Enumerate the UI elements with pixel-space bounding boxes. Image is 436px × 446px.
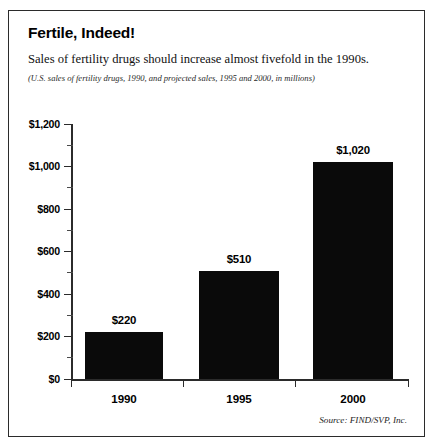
y-tick-minor-100: [67, 357, 73, 358]
y-tick-minor-700: [67, 230, 73, 231]
y-axis-label-800: $800: [0, 204, 60, 215]
bar-1995: [199, 271, 279, 379]
y-tick-major-400: [64, 294, 73, 295]
y-tick-major-600: [64, 251, 73, 252]
y-axis-label-600: $600: [0, 246, 60, 257]
x-tick-left-edge: [71, 379, 72, 387]
x-axis-label-1990: 1990: [79, 392, 169, 405]
x-tick-1990-1995: [183, 379, 184, 387]
y-tick-major-1000: [64, 166, 73, 167]
figure-panel: Fertile, Indeed! Sales of fertility drug…: [8, 10, 425, 437]
y-axis-label-200: $200: [0, 331, 60, 342]
y-tick-major-200: [64, 336, 73, 337]
y-axis-label-0: $0: [0, 374, 60, 385]
y-axis-label-1200: $1,200: [0, 119, 60, 130]
x-tick-right-edge: [408, 379, 409, 387]
bar-value-label-1995: $510: [184, 253, 294, 265]
x-tick-1995-2000: [295, 379, 296, 387]
bar-1990: [85, 332, 163, 379]
y-tick-major-1200: [64, 124, 73, 125]
x-axis-label-2000: 2000: [308, 392, 398, 405]
y-axis-label-1000: $1,000: [0, 161, 60, 172]
source-attribution: Source: FIND/SVP, Inc.: [319, 415, 407, 425]
y-tick-major-800: [64, 209, 73, 210]
bar-value-label-1990: $220: [69, 314, 179, 326]
x-axis-label-1995: 1995: [194, 392, 284, 405]
y-tick-minor-500: [67, 272, 73, 273]
bar-chart-plot: $1,200 $1,000 $800 $600 $400 $200 $0 $22…: [9, 11, 426, 438]
y-tick-minor-900: [67, 187, 73, 188]
y-axis-line: [71, 124, 73, 381]
x-axis-line: [71, 379, 409, 381]
y-tick-minor-1100: [67, 145, 73, 146]
bar-value-label-2000: $1,020: [298, 144, 408, 156]
y-axis-label-400: $400: [0, 289, 60, 300]
bar-2000: [313, 162, 393, 379]
